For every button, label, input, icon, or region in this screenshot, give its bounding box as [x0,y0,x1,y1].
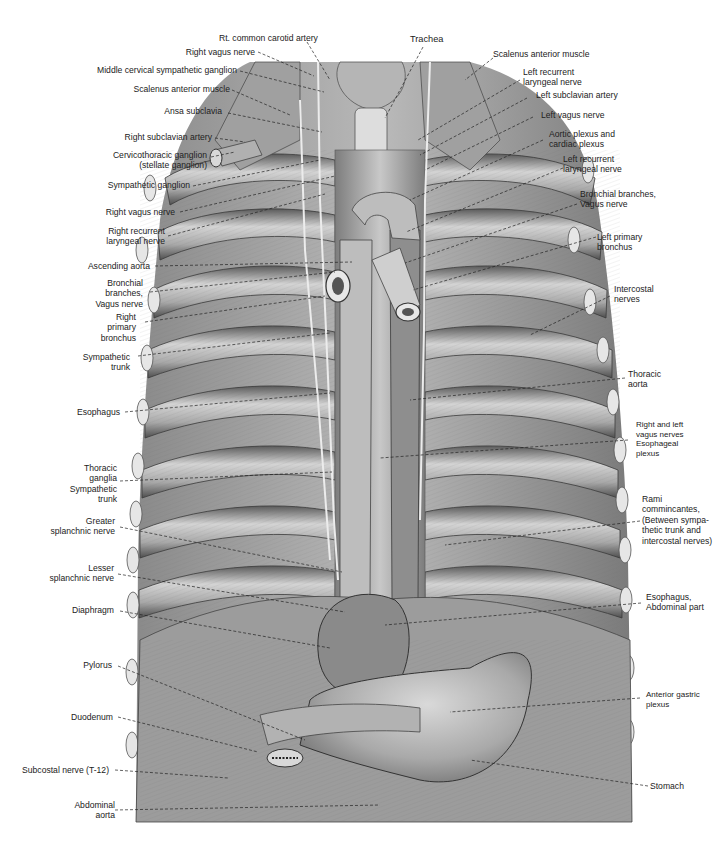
label-subcostal-nerve: Subcostal nerve (T-12) [22,765,109,775]
label-scalenus-anterior-muscle-left: Scalenus anterior muscle [493,49,590,59]
label-esophagus: Esophagus [77,407,120,417]
label-left-primary-bronchus: Left primary bronchus [597,232,642,253]
label-ansa-subclavia: Ansa subclavia [164,106,222,116]
label-duodenum: Duodenum [71,712,113,722]
label-anterior-gastric-plexus: Anterior gastric plexus [646,690,700,709]
label-left-recurrent-laryngeal-nerve-lower: Left recurrent laryngeal nerve [563,154,622,175]
label-right-primary-bronchus: Right primary bronchus [101,312,136,343]
label-thoracic-aorta: Thoracic aorta [628,369,661,390]
label-lesser-splanchnic-nerve: Lesser splanchnic nerve [50,563,115,584]
label-diaphragm: Diaphragm [72,605,114,615]
label-right-vagus-nerve-upper: Right vagus nerve [186,47,255,57]
label-ascending-aorta: Ascending aorta [88,261,150,271]
label-abdominal-aorta: Abdominal aorta [74,800,115,821]
label-aortic-plexus: Aortic plexus and cardiac plexus [549,129,615,150]
label-trachea: Trachea [410,34,443,44]
label-right-recurrent-laryngeal-nerve: Right recurrent laryngeal nerve [106,226,165,247]
label-left-subclavian-artery: Left subclavian artery [536,90,618,100]
label-sympathetic-trunk: Sympathetic trunk [83,352,130,373]
label-bronchial-branches-vagus-right: Bronchial branches, Vagus nerve [95,278,143,309]
label-rami-communicantes: Rami commincantes, (Between sympa- theti… [642,494,712,546]
label-right-subclavian-artery: Right subclavian artery [125,132,212,142]
label-sympathetic-ganglion: Sympathetic ganglion [108,180,190,190]
label-rt-common-carotid-artery: Rt. common carotid artery [219,33,318,43]
label-intercostal-nerves: Intercostal nerves [614,284,654,305]
label-thoracic-ganglia: Thoracic ganglia Sympathetic trunk [70,463,117,505]
label-bronchial-branches-vagus-left: Bronchial branches, Vagus nerve [580,189,656,210]
label-middle-cervical-sympathetic-ganglion: Middle cervical sympathetic ganglion [97,65,237,75]
label-right-vagus-nerve-lower: Right vagus nerve [106,207,175,217]
label-cervicothoracic-ganglion: Cervicothoracic ganglion (stellate gangl… [113,150,207,171]
label-stomach: Stomach [650,781,684,791]
anatomy-figure: Rt. common carotid artery Trachea Right … [0,0,720,862]
label-greater-splanchnic-nerve: Greater splanchnic nerve [51,516,116,537]
label-left-recurrent-laryngeal-nerve-upper: Left recurrent laryngeal nerve [523,67,582,88]
label-esophagus-abdominal-part: Esophagus, Abdominal part [646,592,704,613]
label-left-vagus-nerve: Left vagus nerve [541,110,605,120]
label-esophageal-plexus: Right and left vagus nerves Esophageal p… [636,420,684,458]
label-scalenus-anterior-muscle-right: Scalenus anterior muscle [134,84,231,94]
label-pylorus: Pylorus [83,660,112,670]
